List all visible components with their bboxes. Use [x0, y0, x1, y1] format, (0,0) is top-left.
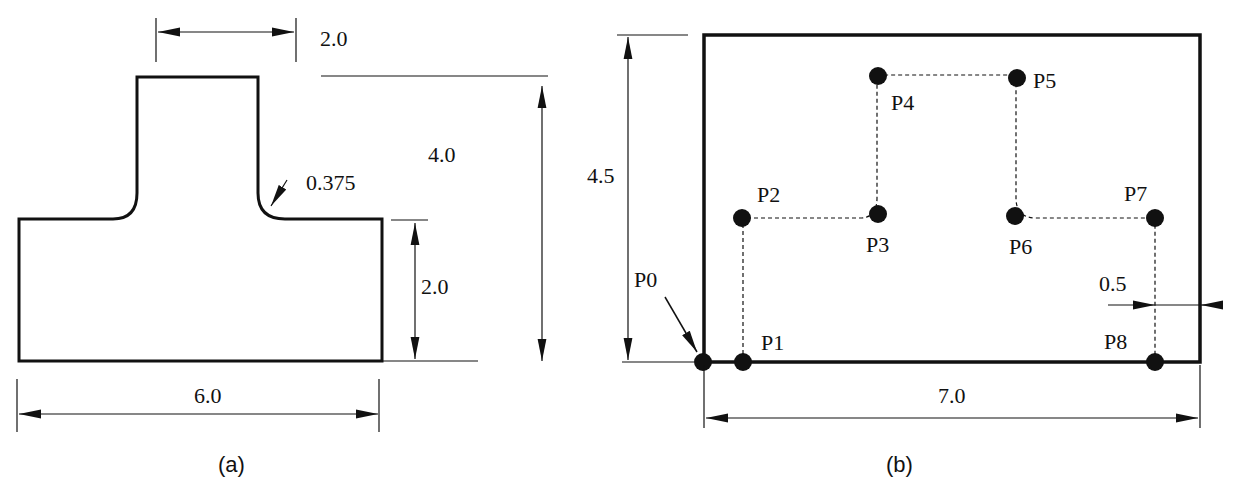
dim-height: 4.5	[587, 163, 615, 188]
label-p7: P7	[1124, 181, 1147, 206]
dim-base-width: 6.0	[194, 383, 222, 408]
toolpath-points	[694, 67, 1164, 371]
dim-total-height: 4.0	[428, 142, 456, 167]
toolpath	[743, 75, 1155, 361]
label-p4: P4	[891, 90, 914, 115]
point-p1	[734, 353, 752, 371]
label-p1: P1	[761, 330, 784, 355]
label-p5: P5	[1033, 68, 1056, 93]
point-p8	[1146, 353, 1164, 371]
label-p2: P2	[757, 182, 780, 207]
dim-base-height: 2.0	[421, 274, 449, 299]
label-p6: P6	[1009, 234, 1032, 259]
caption-b: (b)	[886, 452, 913, 477]
dim-offset: 0.5	[1099, 271, 1127, 296]
point-p3	[869, 205, 887, 223]
point-p6	[1006, 207, 1024, 225]
figure-b: P0 P1 P2 P3 P4 P5 P6 P7 P8 4.5 7.0 0.5 (…	[587, 35, 1222, 477]
figure-a: 2.0 4.0 0.375 2.0 6.0 (a)	[17, 18, 548, 477]
label-p8: P8	[1104, 329, 1127, 354]
point-p5	[1008, 69, 1026, 87]
dim-width: 7.0	[938, 383, 966, 408]
caption-a: (a)	[218, 452, 245, 477]
label-p0: P0	[634, 267, 657, 292]
dim-fillet-radius: 0.375	[306, 170, 356, 195]
label-p3: P3	[866, 232, 889, 257]
t-shape-profile	[19, 77, 382, 361]
point-p0	[694, 353, 712, 371]
point-p4	[869, 67, 887, 85]
point-p2	[733, 209, 751, 227]
point-p7	[1146, 209, 1164, 227]
drawing-canvas: 2.0 4.0 0.375 2.0 6.0 (a)	[0, 0, 1234, 493]
dim-top-width: 2.0	[320, 26, 348, 51]
